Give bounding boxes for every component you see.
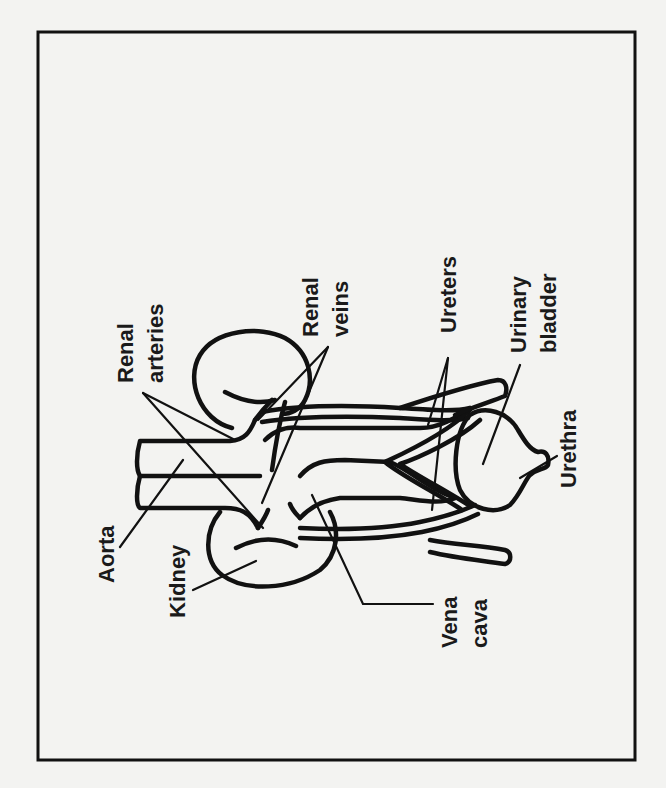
label-renal-arteries-line2: arteries	[143, 303, 168, 383]
upper-kidney-shape	[194, 331, 310, 428]
label-renal-arteries-line1: Renal	[113, 323, 138, 383]
aorta-leader	[120, 460, 183, 547]
label-urinary-bladder-line1: Urinary	[506, 275, 531, 353]
label-renal-veins-line1: Renal	[298, 277, 323, 337]
lower-kidney-hilum	[236, 539, 296, 548]
upper-kidney-hilum	[225, 392, 275, 402]
label-urinary-bladder-line2: bladder	[536, 273, 561, 353]
figure-frame	[38, 32, 635, 760]
label-vena-cava-line2: cava	[467, 598, 492, 648]
lower-ureter	[300, 505, 478, 539]
label-vena-cava-line1: Vena	[437, 596, 462, 648]
labels: Renal arteries Renal veins Ureters Urina…	[94, 256, 581, 648]
aorta-shape	[137, 420, 260, 476]
urethra-leader	[520, 456, 557, 478]
renal-arteries-leader-1	[143, 393, 235, 440]
label-ureters: Ureters	[436, 256, 461, 333]
lower-renal-vessels	[258, 504, 300, 528]
organ-drawing	[137, 331, 548, 586]
iliac-lower	[430, 540, 510, 564]
label-urethra: Urethra	[556, 409, 581, 488]
upper-ureter	[262, 406, 470, 422]
renal-veins-leader-2	[262, 347, 328, 503]
label-kidney: Kidney	[165, 544, 190, 618]
urinary-bladder-shape	[456, 410, 549, 510]
urinary-system-diagram: Renal arteries Renal veins Ureters Urina…	[0, 0, 666, 788]
vena-cava-shape	[137, 476, 455, 528]
label-renal-veins-line2: veins	[328, 281, 353, 337]
label-aorta: Aorta	[94, 525, 119, 583]
